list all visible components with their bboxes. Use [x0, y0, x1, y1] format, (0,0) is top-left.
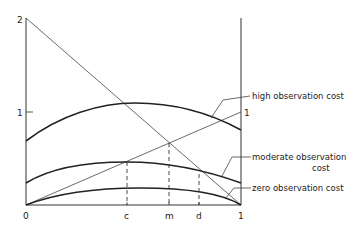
high-cost-curve: [26, 103, 241, 141]
y-tick-2: 2: [17, 15, 23, 25]
x-tick-m: m: [165, 211, 174, 221]
moderate-leader-line: [222, 157, 251, 176]
x-tick-d: d: [196, 211, 202, 221]
zero-cost-label: zero observation cost: [252, 183, 344, 193]
diagram-canvas: 2 1 0 1 c m d 1 high observation cost mo…: [0, 0, 354, 231]
zero-leader-line: [225, 188, 251, 199]
y-tick-1: 1: [17, 108, 23, 118]
right-tick-1: 1: [244, 108, 250, 118]
zero-cost-curve: [26, 188, 241, 205]
high-cost-label: high observation cost: [252, 91, 345, 101]
moderate-cost-curve: [26, 162, 241, 183]
x-tick-c: c: [124, 211, 129, 221]
moderate-cost-label-line1: moderate observation: [252, 152, 346, 162]
x-tick-0: 0: [23, 211, 29, 221]
rising-diagonal: [26, 112, 241, 205]
moderate-cost-label-line2: cost: [312, 163, 330, 173]
x-tick-1: 1: [238, 211, 244, 221]
falling-diagonal: [26, 18, 241, 205]
